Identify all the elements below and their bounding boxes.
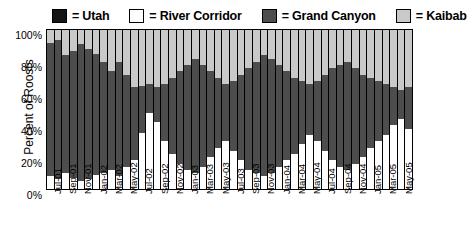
bar-segment bbox=[177, 30, 184, 71]
bar-segment bbox=[398, 90, 405, 119]
bar-segment bbox=[291, 30, 298, 78]
legend-item-river-corridor: = River Corridor bbox=[129, 9, 241, 23]
bar-segment bbox=[123, 30, 130, 75]
bar-segment bbox=[253, 30, 260, 62]
bar-segment bbox=[55, 30, 62, 40]
bar-segment bbox=[70, 51, 77, 178]
x-tick-label: Jan-03 bbox=[190, 165, 199, 194]
bar-segment bbox=[154, 30, 161, 87]
bar-segment bbox=[383, 84, 390, 135]
y-tick-label: 100% bbox=[2, 30, 42, 40]
legend-swatch-river-corridor bbox=[129, 9, 144, 23]
bar-segment bbox=[238, 75, 245, 161]
x-tick-label: May-03 bbox=[221, 162, 230, 194]
x-tick-label: Mar-05 bbox=[388, 164, 397, 194]
x-tick-label: Jul-03 bbox=[236, 168, 245, 194]
bar-segment bbox=[291, 78, 298, 154]
bar-segment bbox=[360, 30, 367, 75]
bar-segment bbox=[367, 78, 374, 148]
bar-segment bbox=[367, 30, 374, 78]
y-tick-label: 0% bbox=[2, 190, 42, 200]
bar-segment bbox=[146, 84, 153, 113]
y-tick-label: 40% bbox=[2, 126, 42, 136]
x-tick-label: May-02 bbox=[129, 162, 138, 194]
x-tick-label: Nov-03 bbox=[266, 163, 275, 194]
bar-column bbox=[322, 30, 329, 189]
bar-segment bbox=[253, 62, 260, 173]
bar-segment bbox=[268, 30, 275, 59]
bar-segment bbox=[154, 87, 161, 122]
x-tick-label: Jul-04 bbox=[327, 168, 336, 194]
x-tick-label: Nov-01 bbox=[83, 163, 92, 194]
bar-segment bbox=[390, 30, 397, 87]
bar-segment bbox=[314, 81, 321, 141]
legend-swatch-kaibab bbox=[396, 9, 411, 23]
bar-segment bbox=[139, 86, 146, 134]
bar-segment bbox=[184, 65, 191, 170]
x-tick-label: Nov-02 bbox=[175, 163, 184, 194]
x-tick-label: Jan-02 bbox=[99, 165, 108, 194]
bar-segment bbox=[276, 30, 283, 65]
y-tick-label: 20% bbox=[2, 158, 42, 168]
bar-segment bbox=[405, 30, 412, 87]
x-tick-label: Jan-04 bbox=[282, 165, 291, 194]
y-tick-label: 80% bbox=[2, 62, 42, 72]
y-tick-label: 60% bbox=[2, 94, 42, 104]
x-tick-label: Sep-01 bbox=[68, 163, 77, 194]
bar-segment bbox=[78, 30, 85, 44]
bar-segment bbox=[238, 30, 245, 75]
bar-segment bbox=[62, 55, 69, 173]
bar-segment bbox=[398, 30, 405, 90]
bar-segment bbox=[405, 87, 412, 128]
bar-column bbox=[139, 30, 146, 189]
bar-column bbox=[329, 30, 336, 189]
bar-segment bbox=[192, 30, 199, 59]
bar-segment bbox=[131, 87, 138, 160]
bar-segment bbox=[100, 30, 107, 62]
y-axis-tick-labels: 100%80%60%40%20%0% bbox=[2, 24, 42, 196]
bar-segment bbox=[322, 30, 329, 75]
x-tick-label: Sep-03 bbox=[251, 163, 260, 194]
bar-segment bbox=[93, 54, 100, 175]
legend-item-utah: = Utah bbox=[52, 9, 109, 23]
bar-segment bbox=[215, 78, 222, 148]
legend-item-kaibab: = Kaibab bbox=[396, 9, 467, 23]
bar-segment bbox=[85, 49, 92, 179]
bar-segment bbox=[108, 30, 115, 71]
bar-segment bbox=[207, 30, 214, 71]
x-axis-tick-labels: Jul-01Sep-01Nov-01Jan-02Mar-02May-02Jul-… bbox=[46, 192, 412, 246]
bar-segment bbox=[215, 30, 222, 78]
bar-segment bbox=[78, 44, 85, 181]
bar-segment bbox=[108, 71, 115, 170]
bar-segment bbox=[55, 40, 62, 180]
bar-segment bbox=[47, 43, 54, 177]
bar-segment bbox=[245, 68, 252, 170]
bar-segment bbox=[375, 81, 382, 141]
bar-segment bbox=[139, 30, 146, 86]
bar-segment bbox=[47, 30, 54, 43]
bar-segment bbox=[85, 30, 92, 49]
bar-segment bbox=[123, 75, 130, 167]
bar-segment bbox=[200, 30, 207, 65]
bar-segment bbox=[100, 62, 107, 173]
bar-segment bbox=[276, 65, 283, 167]
bar-segment bbox=[169, 78, 176, 154]
x-tick-label: May-05 bbox=[404, 162, 413, 194]
x-tick-label: Mar-03 bbox=[205, 164, 214, 194]
bar-segment bbox=[146, 30, 153, 84]
bar-segment bbox=[299, 81, 306, 145]
bar-segment bbox=[207, 71, 214, 157]
bar-segment bbox=[329, 68, 336, 160]
bar-column bbox=[230, 30, 237, 189]
bar-segment bbox=[230, 81, 237, 151]
x-tick-label: Mar-02 bbox=[114, 164, 123, 194]
bar-segment bbox=[184, 30, 191, 65]
bar-column bbox=[55, 30, 62, 189]
legend-item-grand-canyon: = Grand Canyon bbox=[262, 9, 376, 23]
bar-segment bbox=[268, 59, 275, 173]
bar-segment bbox=[329, 30, 336, 68]
x-tick-label: May-04 bbox=[312, 162, 321, 194]
bar-segment bbox=[230, 30, 237, 81]
bar-segment bbox=[161, 30, 168, 84]
legend-label-kaibab: = Kaibab bbox=[416, 9, 467, 23]
